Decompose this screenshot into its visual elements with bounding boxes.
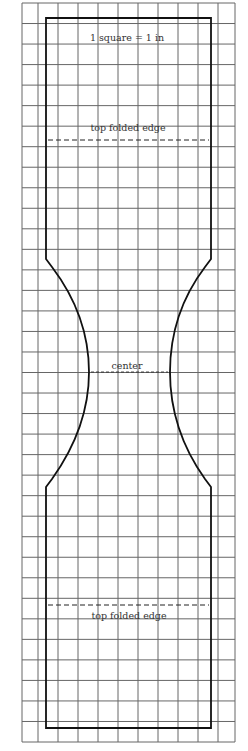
grid [22,3,235,742]
scale-label: 1 square = 1 in [90,32,164,43]
center-label: center [111,360,143,371]
pattern-diagram: 1 square = 1 in top folded edge center t… [0,0,248,751]
bottom-fold-label: top folded edge [91,610,167,621]
top-fold-label: top folded edge [90,122,166,133]
